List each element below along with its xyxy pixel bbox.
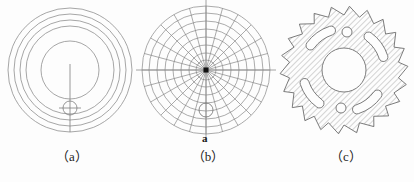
caption-panel-c: （c） <box>296 146 396 165</box>
technical-figure: a （a） （b） <box>0 0 414 182</box>
center-hub-square <box>204 68 209 73</box>
inner-label-a: a <box>202 132 208 144</box>
panel-b-polar-grid: a <box>138 0 280 148</box>
panel-a-drawing <box>0 0 140 148</box>
caption-panel-a: （a） <box>22 146 122 165</box>
panel-c-saw-blade <box>278 0 414 148</box>
panel-c-drawing <box>278 0 414 148</box>
caption-panel-b: （b） <box>158 146 258 165</box>
panel-a-concentric-circles <box>0 0 140 148</box>
caption-row: （a） （b） （c） <box>0 146 414 182</box>
panel-b-drawing <box>138 0 280 148</box>
